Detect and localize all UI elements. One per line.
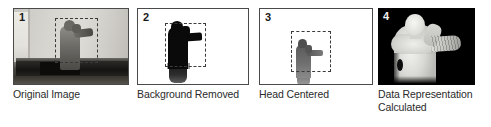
panel-3-caption: Head Centered [259,88,373,101]
panel-4-number: 4 [383,10,389,22]
region-of-interest-box [55,18,98,63]
panel-4-caption: Data Representation Calculated [378,88,491,113]
depthmap-bottom-fade [388,76,448,85]
pipeline-figure: 1 Original Image 2 Background Removed [0,0,491,127]
depthmap-arm-banding [430,34,461,52]
floor-strip [14,77,128,84]
panel-4-scene [378,8,475,85]
head-centered-box [291,31,331,72]
panel-1-number: 1 [19,11,25,23]
panel-1-caption: Original Image [13,88,129,101]
region-of-interest-box [165,23,206,67]
panel-2-image: 2 [137,8,249,85]
depthmap-head [405,14,425,36]
panel-2-caption: Background Removed [137,88,255,101]
panel-3-image: 3 [259,8,373,85]
panel-1-image: 1 [13,8,129,85]
panel-2-number: 2 [143,11,149,23]
panel-3-number: 3 [265,11,271,23]
panel-4-image: 4 [378,8,475,85]
